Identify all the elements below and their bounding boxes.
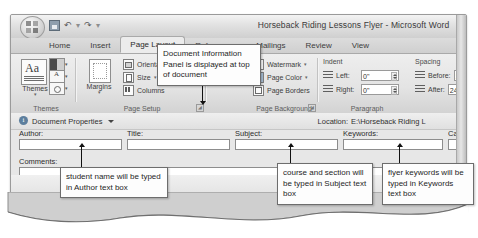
page-setup-dialog-launcher[interactable]: ◢: [196, 104, 204, 112]
undo-dropdown-icon[interactable]: ▾: [76, 22, 80, 30]
page-color-label: Page Color: [267, 74, 302, 81]
field-author: Author:: [19, 129, 122, 150]
spacing-heading: Spacing: [415, 58, 440, 65]
window-title: Horseback Riding Lessons Flyer - Microso…: [246, 20, 461, 30]
info-icon[interactable]: i: [19, 116, 28, 125]
margins-button-label[interactable]: Margins▾: [77, 83, 121, 94]
author-input[interactable]: [19, 139, 122, 150]
indent-right-stepper[interactable]: [391, 86, 397, 95]
theme-effects-icon[interactable]: [49, 82, 65, 95]
page-color-caret-icon: ▾: [305, 74, 308, 80]
size-label: Size: [137, 74, 151, 81]
ribbon-group-themes: Aa Themes▾ ▾ ▾ ▾ Themes: [15, 54, 77, 114]
spacing-after-label: After:: [428, 86, 445, 93]
ribbon-group-paragraph: Indent Left: 0" Right: 0" Spacing Before…: [319, 54, 449, 114]
category-input[interactable]: [448, 139, 467, 150]
page-background-dialog-launcher[interactable]: ◢: [308, 104, 316, 112]
quick-access-toolbar: ↶ ▾ ↷ ▾: [49, 18, 100, 33]
callout-dip: Document Information Panel is displayed …: [157, 44, 261, 86]
dip-header: i Document Properties Location: E:\Horse…: [11, 113, 466, 130]
redo-icon[interactable]: ↷: [84, 21, 92, 30]
spacing-before-label: Before:: [428, 72, 451, 79]
tab-view[interactable]: View: [342, 37, 379, 53]
group-label-page-setup: Page Setup: [77, 105, 207, 113]
indent-left-value: 0": [363, 73, 369, 80]
title-label: Title:: [127, 129, 230, 138]
tab-home[interactable]: Home: [39, 37, 80, 53]
indent-heading: Indent: [323, 58, 342, 65]
page-borders-label: Page Borders: [267, 87, 310, 94]
indent-left-icon: [323, 71, 333, 80]
location-label: Location:: [318, 117, 348, 126]
columns-button[interactable]: Columns: [123, 84, 165, 96]
spacing-before-icon: [415, 71, 425, 80]
orientation-icon: [123, 59, 134, 70]
indent-left-row: Left: 0": [323, 70, 399, 81]
title-bar: ↶ ▾ ↷ ▾ Horseback Riding Lessons Flyer -…: [11, 15, 466, 39]
page-borders-icon: [253, 85, 264, 96]
category-label: Ca: [448, 129, 467, 138]
dip-fields: Author: Title: Subject: Keywords: Ca: [11, 129, 466, 155]
field-title: Title:: [127, 129, 230, 150]
margins-icon[interactable]: [89, 59, 111, 83]
group-label-themes: Themes: [15, 105, 77, 113]
field-keywords: Keywords:: [343, 129, 443, 150]
title-input[interactable]: [127, 139, 230, 150]
undo-icon[interactable]: ↶: [64, 21, 72, 30]
indent-right-label: Right:: [336, 86, 358, 93]
author-label: Author:: [19, 129, 122, 138]
callout-keywords: flyer keywords will be typed in Keywords…: [382, 163, 474, 205]
field-category: Ca: [448, 129, 467, 150]
indent-right-input[interactable]: 0": [361, 84, 399, 95]
indent-left-stepper[interactable]: [391, 72, 397, 81]
office-button-icon[interactable]: [20, 16, 45, 39]
save-icon[interactable]: [49, 20, 60, 31]
screenshot-root: ↶ ▾ ↷ ▾ Horseback Riding Lessons Flyer -…: [0, 0, 478, 238]
indent-right-icon: [323, 85, 333, 94]
callout-subject: course and section will be typed in Subj…: [277, 163, 373, 205]
keywords-input[interactable]: [343, 139, 443, 150]
theme-fonts-caret-icon[interactable]: ▾: [65, 74, 68, 79]
chevron-down-icon[interactable]: [108, 120, 114, 123]
columns-label: Columns: [137, 87, 165, 94]
size-icon: [123, 72, 134, 83]
group-label-paragraph: Paragraph: [319, 105, 415, 113]
keywords-label: Keywords:: [343, 129, 443, 138]
page-color-button[interactable]: Page Color ▾: [253, 71, 308, 83]
indent-right-value: 0": [363, 87, 369, 94]
comments-label: Comments:: [19, 157, 57, 166]
location-value: E:\Horseback Riding L: [351, 117, 456, 126]
subject-input[interactable]: [235, 139, 338, 150]
indent-left-input[interactable]: 0": [361, 70, 399, 81]
callout-author: student name will be typed in Author tex…: [60, 167, 168, 198]
customize-qat-icon[interactable]: ▾: [96, 22, 100, 30]
tab-insert[interactable]: Insert: [80, 37, 120, 53]
field-subject: Subject:: [235, 129, 338, 150]
spacing-before-row: Before: 10: [415, 70, 467, 81]
tab-review[interactable]: Review: [296, 37, 342, 53]
watermark-button[interactable]: Watermark ▾: [253, 58, 307, 70]
page-borders-button[interactable]: Page Borders: [253, 84, 310, 96]
spacing-after-icon: [415, 85, 425, 94]
theme-effects-caret-icon[interactable]: ▾: [65, 86, 68, 91]
spacing-after-input[interactable]: 24: [448, 84, 467, 95]
size-button[interactable]: Size ▾: [123, 71, 157, 83]
subject-label: Subject:: [235, 129, 338, 138]
watermark-label: Watermark: [267, 61, 301, 68]
theme-colors-caret-icon[interactable]: ▾: [65, 62, 68, 67]
indent-left-label: Left:: [336, 72, 358, 79]
spacing-after-row: After: 24: [415, 84, 467, 95]
indent-right-row: Right: 0": [323, 84, 399, 95]
spacing-before-input[interactable]: 10: [454, 70, 467, 81]
watermark-caret-icon: ▾: [304, 61, 307, 67]
themes-icon[interactable]: Aa: [21, 59, 47, 85]
columns-icon: [123, 85, 134, 96]
dip-title[interactable]: Document Properties: [32, 117, 102, 126]
